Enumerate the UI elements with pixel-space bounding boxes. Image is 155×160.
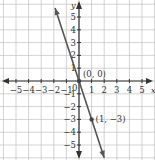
data-point-marker [77,79,81,83]
y-tick-label: −2 [63,102,76,112]
x-tick-label: −5 [10,85,23,95]
x-tick-label: −3 [35,85,48,95]
y-tick-label: −4 [63,127,76,137]
data-point-marker [89,117,93,121]
x-tick-label: 1 [89,85,94,95]
line-graph: xy −5−4−3−2−1012345−5−4−3−2−112345 (0, 0… [0,0,155,160]
x-tick-label: −2 [48,85,61,95]
x-axis-label: x [151,86,155,95]
x-axis-right-arrow-icon [146,78,153,84]
y-tick-label: −1 [63,89,76,99]
y-axis-up-arrow-icon [76,1,82,9]
y-tick-label: 3 [71,38,76,48]
x-tick-label: −4 [22,85,35,95]
line-end-arrow-icon [99,150,104,158]
y-tick-label: 4 [71,25,76,35]
data-point-label: (0, 0) [83,69,106,79]
y-tick-label: −5 [63,140,76,150]
x-tick-label: 2 [101,85,106,95]
data-point-label: (1, −3) [96,114,126,124]
line-start-arrow-icon [55,8,60,16]
x-tick-label: 4 [127,85,132,95]
x-tick-label: 5 [139,85,144,95]
coordinate-plane: xy −5−4−3−2−1012345−5−4−3−2−112345 (0, 0… [0,0,155,160]
x-tick-label: 3 [114,85,119,95]
y-axis-label: y [70,1,76,10]
y-tick-label: −3 [63,114,76,124]
y-tick-label: 5 [71,12,76,22]
